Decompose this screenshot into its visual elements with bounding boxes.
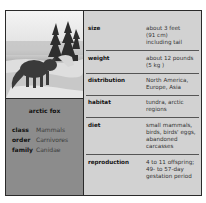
- facts-panel: size about 3 feet (91 cm) including tail…: [84, 11, 201, 195]
- left-panel: arctic fox class Mammals order Carnivore…: [6, 11, 84, 195]
- fact-line: (91 cm): [146, 32, 202, 39]
- fact-line: tundra, arctic: [146, 99, 202, 106]
- fact-line: North America,: [146, 77, 202, 84]
- divider: [86, 95, 199, 96]
- divider: [86, 50, 199, 51]
- taxonomy-value: Carnivores: [36, 135, 68, 145]
- taxonomy-row-order: order Carnivores: [12, 135, 68, 145]
- fact-value: 4 to 11 offspring; 49- to 57-day gestati…: [146, 159, 202, 180]
- divider: [86, 117, 199, 118]
- fact-label: distribution: [88, 77, 125, 84]
- fact-line: small mammals,: [146, 122, 202, 129]
- fact-line: 4 to 11 offspring;: [146, 159, 202, 166]
- fact-line: 49- to 57-day: [146, 166, 202, 173]
- animal-fact-card: arctic fox class Mammals order Carnivore…: [5, 10, 202, 196]
- fact-line: regions: [146, 106, 202, 113]
- fact-line: including tail: [146, 39, 202, 46]
- fact-label: habitat: [88, 99, 111, 106]
- fact-value: about 12 pounds (5 kg ): [146, 55, 202, 69]
- fact-label: reproduction: [88, 159, 129, 166]
- taxonomy-list: class Mammals order Carnivores family Ca…: [12, 125, 68, 155]
- fact-value: about 3 feet (91 cm) including tail: [146, 25, 202, 46]
- fact-line: birds, birds' eggs,: [146, 129, 202, 136]
- taxonomy-key: family: [12, 145, 36, 155]
- fact-value: small mammals, birds, birds' eggs, aband…: [146, 122, 202, 150]
- fact-line: carcasses: [146, 143, 202, 150]
- taxonomy-row-class: class Mammals: [12, 125, 68, 135]
- fact-value: North America, Europe, Asia: [146, 77, 202, 91]
- arctic-fox-photo-icon: [6, 11, 83, 99]
- fact-label: weight: [88, 55, 110, 62]
- fact-label: diet: [88, 122, 100, 129]
- taxonomy-key: class: [12, 125, 36, 135]
- divider: [86, 154, 199, 155]
- fact-line: about 12 pounds: [146, 55, 202, 62]
- fact-line: (5 kg ): [146, 62, 202, 69]
- taxonomy-value: Mammals: [36, 125, 65, 135]
- fact-line: gestation period: [146, 173, 202, 180]
- taxonomy-value: Canidae: [36, 145, 61, 155]
- fact-line: about 3 feet: [146, 25, 202, 32]
- taxonomy-key: order: [12, 135, 36, 145]
- fact-line: Europe, Asia: [146, 84, 202, 91]
- fact-line: abandoned: [146, 136, 202, 143]
- taxonomy-row-family: family Canidae: [12, 145, 68, 155]
- divider: [86, 73, 199, 74]
- animal-name: arctic fox: [6, 107, 83, 114]
- fact-value: tundra, arctic regions: [146, 99, 202, 113]
- fact-label: size: [88, 25, 100, 32]
